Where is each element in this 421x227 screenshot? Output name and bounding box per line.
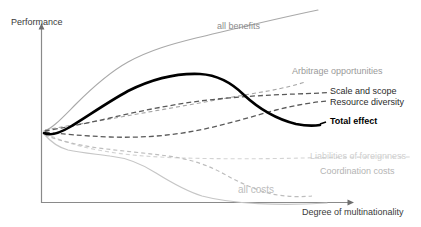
- curve-all-costs: [44, 134, 327, 204]
- curve-resource-diversity: [45, 101, 328, 137]
- label-all-benefits: all benefits: [217, 21, 260, 31]
- curve-all-benefits: [44, 10, 318, 131]
- y-axis-label: Performance: [11, 17, 63, 27]
- chart-canvas: [0, 0, 421, 227]
- axes-group: [39, 23, 354, 205]
- x-axis-arrow-icon: [348, 200, 355, 206]
- total-effect-leader-line: [320, 122, 326, 124]
- curve-scale-and-scope: [45, 93, 328, 132]
- label-resource-diversity: Resource diversity: [330, 97, 404, 107]
- label-arbitrage-opportunities: Arbitrage opportunities: [292, 66, 383, 76]
- curve-arbitrage-opportunities: [45, 82, 305, 130]
- label-total-effect: Total effect: [330, 116, 377, 126]
- x-axis-label: Degree of multinationality: [302, 207, 404, 217]
- performance-multinationality-chart: Performance Degree of multinationality a…: [0, 0, 421, 227]
- label-liabilities-of-foreignness: Liabilities of foreignness: [310, 151, 406, 161]
- label-scale-and-scope: Scale and scope: [330, 86, 397, 96]
- label-all-costs: all costs: [238, 185, 274, 195]
- label-coordination-costs: Coordination costs: [320, 166, 395, 176]
